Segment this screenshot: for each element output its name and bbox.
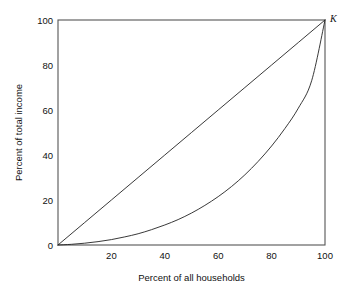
y-tick-label: 60 <box>42 105 53 116</box>
chart-canvas: 100 80 60 40 20 0 20 40 60 80 100 Percen… <box>0 0 349 295</box>
y-axis-tick-labels: 100 80 60 40 20 0 <box>37 15 53 251</box>
x-tick-label: 60 <box>213 250 224 261</box>
series-group <box>58 20 325 245</box>
x-axis-title: Percent of all households <box>138 272 245 283</box>
lorenz-curve-figure: 100 80 60 40 20 0 20 40 60 80 100 Percen… <box>0 0 349 295</box>
line-of-equality <box>58 20 325 245</box>
x-tick-label: 40 <box>160 250 171 261</box>
y-tick-label: 0 <box>48 240 53 251</box>
y-tick-label: 100 <box>37 15 53 26</box>
y-tick-label: 80 <box>42 60 53 71</box>
x-tick-label: 80 <box>266 250 277 261</box>
x-tick-label: 100 <box>317 250 333 261</box>
point-k-label: K <box>329 13 338 24</box>
y-tick-label: 20 <box>42 195 53 206</box>
x-tick-label: 20 <box>106 250 117 261</box>
y-axis-title: Percent of total income <box>13 84 24 181</box>
x-axis-tick-labels: 20 40 60 80 100 <box>106 250 333 261</box>
y-tick-label: 40 <box>42 150 53 161</box>
